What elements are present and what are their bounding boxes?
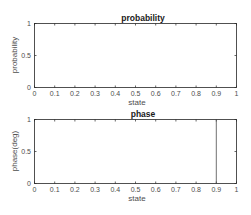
x-tick-label: 0.5 bbox=[131, 186, 141, 193]
subplot-probability: 00.10.20.30.40.50.60.70.80.9100.51probab… bbox=[10, 13, 239, 107]
x-tick-label: 0.7 bbox=[171, 186, 181, 193]
y-tick-label: 0 bbox=[27, 84, 31, 91]
x-axis-label: state bbox=[128, 194, 146, 203]
chart-title: phase bbox=[131, 109, 156, 119]
x-tick-label: 0.1 bbox=[50, 186, 60, 193]
figure: 00.10.20.30.40.50.60.70.80.9100.51probab… bbox=[0, 0, 251, 215]
x-tick-label: 0.8 bbox=[191, 186, 201, 193]
x-tick-label: 1 bbox=[235, 90, 239, 97]
x-tick-label: 0.7 bbox=[171, 90, 181, 97]
y-axis-label: phase(deg) bbox=[10, 130, 19, 171]
chart-title: probability bbox=[121, 13, 165, 23]
y-axis-label: probability bbox=[10, 37, 19, 73]
y-tick-label: 0 bbox=[27, 180, 31, 187]
x-tick-label: 0.4 bbox=[110, 90, 120, 97]
y-tick-label: 1 bbox=[27, 116, 31, 123]
x-tick-label: 0.1 bbox=[50, 90, 60, 97]
axes-box bbox=[35, 120, 237, 184]
x-tick-label: 0.3 bbox=[90, 186, 100, 193]
x-tick-label: 1 bbox=[235, 186, 239, 193]
x-tick-label: 0.2 bbox=[70, 186, 80, 193]
subplot-phase: 00.10.20.30.40.50.60.70.80.9100.51phases… bbox=[10, 109, 239, 203]
x-tick-label: 0.2 bbox=[70, 90, 80, 97]
y-tick-label: 0.5 bbox=[21, 148, 31, 155]
x-tick-label: 0.5 bbox=[131, 90, 141, 97]
x-axis-label: state bbox=[128, 98, 146, 107]
x-tick-label: 0.9 bbox=[211, 186, 221, 193]
axes-box bbox=[35, 24, 237, 88]
x-tick-label: 0.9 bbox=[211, 90, 221, 97]
x-tick-label: 0.6 bbox=[151, 186, 161, 193]
x-tick-label: 0.8 bbox=[191, 90, 201, 97]
x-tick-label: 0.4 bbox=[110, 186, 120, 193]
x-tick-label: 0.6 bbox=[151, 90, 161, 97]
x-tick-label: 0 bbox=[33, 186, 37, 193]
y-tick-label: 1 bbox=[27, 20, 31, 27]
x-tick-label: 0.3 bbox=[90, 90, 100, 97]
x-tick-label: 0 bbox=[33, 90, 37, 97]
y-tick-label: 0.5 bbox=[21, 52, 31, 59]
